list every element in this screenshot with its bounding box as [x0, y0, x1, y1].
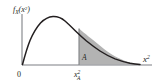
chi-square-plot: fX(x2) 0 A x2A x2 [0, 0, 161, 83]
origin-label: 0 [17, 70, 21, 79]
x-axis-label: x2 [142, 54, 150, 64]
x-axis-label-superscript: 2 [147, 54, 150, 60]
threshold-label-subscript: A [76, 75, 81, 81]
y-axis-label-paren-close: ) [26, 5, 30, 14]
area-label: A [81, 53, 87, 62]
threshold-label: x2A [73, 69, 81, 81]
y-axis-label: fX(x2) [13, 5, 30, 15]
chi-square-figure: fX(x2) 0 A x2A x2 [0, 0, 161, 83]
shaded-tail-area [79, 29, 140, 66]
